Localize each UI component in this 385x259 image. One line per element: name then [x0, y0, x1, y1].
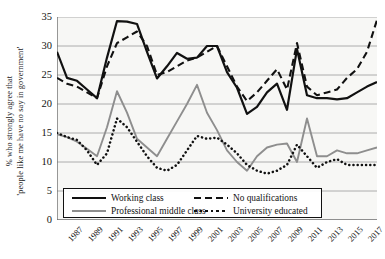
y-axis-tick-label: 20	[30, 99, 52, 110]
legend-label-no-qualifications: No qualifications	[233, 193, 297, 203]
legend-swatch-dotted-line-icon	[194, 206, 228, 216]
x-axis-tick-label: 2013	[326, 225, 344, 244]
x-axis-tick-label: 2009	[286, 225, 304, 244]
legend-swatch-gray-line-icon	[72, 206, 106, 216]
y-axis-tick-label: 35	[30, 12, 52, 23]
legend-item-working-class[interactable]: Working class	[72, 191, 164, 204]
legend-label-working-class: Working class	[111, 193, 164, 203]
x-axis-tick-label: 1995	[146, 225, 164, 244]
x-axis-tick-label: 2003	[226, 225, 244, 244]
x-axis-tick-label: 2011	[306, 225, 324, 243]
y-axis-title-line2: 'people like me have no say in governmen…	[15, 14, 26, 229]
y-axis-tick-label: 0	[30, 215, 52, 226]
chart-legend: Working class Professional middle class …	[63, 188, 322, 218]
x-axis-tick-label: 1991	[106, 225, 124, 244]
x-axis-tick-label: 1987	[66, 225, 84, 244]
x-axis-tick-label: 2015	[346, 225, 364, 244]
x-axis-tick-label: 1993	[126, 225, 144, 244]
x-axis-tick-label: 2001	[206, 225, 224, 244]
legend-item-university-educated[interactable]: University educated	[194, 204, 308, 217]
y-axis-tick-label: 30	[30, 41, 52, 52]
legend-swatch-solid-line-icon	[72, 193, 106, 203]
y-axis-tick-label: 15	[30, 128, 52, 139]
x-axis-tick-label: 2007	[266, 225, 284, 244]
legend-label-university-educated: University educated	[233, 206, 308, 216]
y-axis-tick-label: 25	[30, 70, 52, 81]
chart-container: % who strongly agree that 'people like m…	[0, 0, 385, 259]
legend-item-no-qualifications[interactable]: No qualifications	[194, 191, 297, 204]
legend-swatch-dashed-line-icon	[194, 193, 228, 203]
y-axis-title: % who strongly agree that 'people like m…	[4, 14, 26, 229]
x-axis-tick-label: 1989	[86, 225, 104, 244]
y-axis-tick-label: 10	[30, 157, 52, 168]
x-axis-tick-label: 2005	[246, 225, 264, 244]
legend-item-professional-middle-class[interactable]: Professional middle class	[72, 204, 206, 217]
x-axis-tick-label: 2017	[366, 225, 384, 244]
y-axis-title-line1: % who strongly agree that	[5, 76, 14, 166]
legend-label-professional-middle-class: Professional middle class	[111, 206, 206, 216]
x-axis-tick-label: 1997	[166, 225, 184, 244]
y-axis-tick-label: 5	[30, 186, 52, 197]
x-axis-tick-label: 1999	[186, 225, 204, 244]
